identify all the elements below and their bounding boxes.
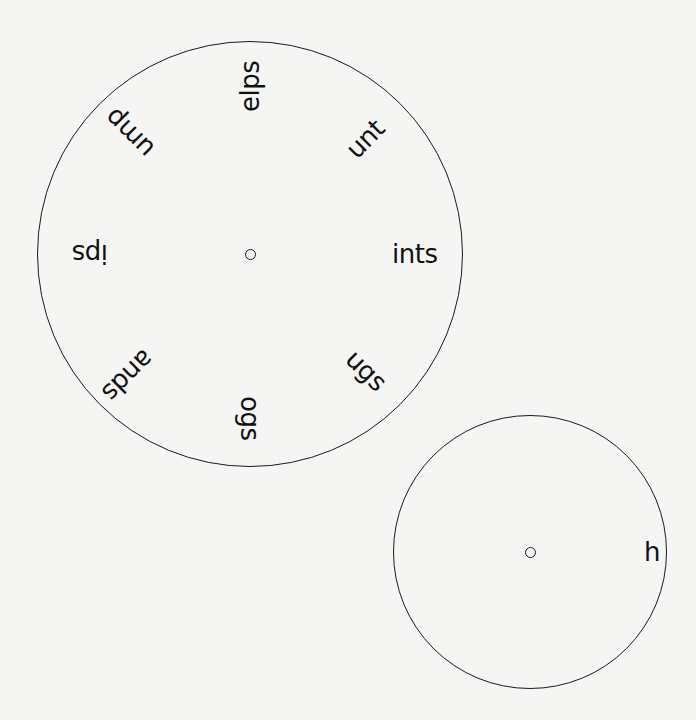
small-wheel-hub <box>525 547 536 558</box>
label-text: ogs <box>237 396 263 440</box>
label-text: elps <box>237 61 263 112</box>
label-text: h <box>644 539 660 565</box>
label-text: ips <box>72 241 108 267</box>
large-wheel-hub <box>245 249 256 260</box>
label-text: ints <box>392 241 437 267</box>
